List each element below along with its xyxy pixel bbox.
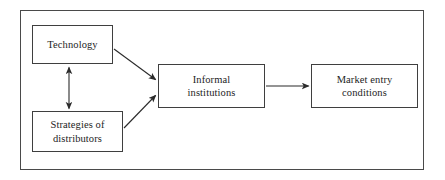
- edge-technology-to-informal: [114, 49, 156, 80]
- node-informal-institutions-label: Informal institutions: [185, 73, 239, 100]
- node-market-entry-conditions-label: Market entry conditions: [334, 73, 396, 100]
- node-strategies-of-distributors-label: Strategies of distributors: [47, 118, 107, 145]
- node-informal-institutions[interactable]: Informal institutions: [158, 64, 265, 108]
- node-market-entry-conditions[interactable]: Market entry conditions: [311, 64, 418, 108]
- node-technology-label: Technology: [44, 38, 100, 51]
- node-technology[interactable]: Technology: [32, 25, 113, 64]
- node-strategies-of-distributors[interactable]: Strategies of distributors: [32, 111, 123, 152]
- edge-strategies-to-informal: [124, 96, 156, 129]
- diagram-page: Technology Strategies of distributors In…: [0, 0, 445, 180]
